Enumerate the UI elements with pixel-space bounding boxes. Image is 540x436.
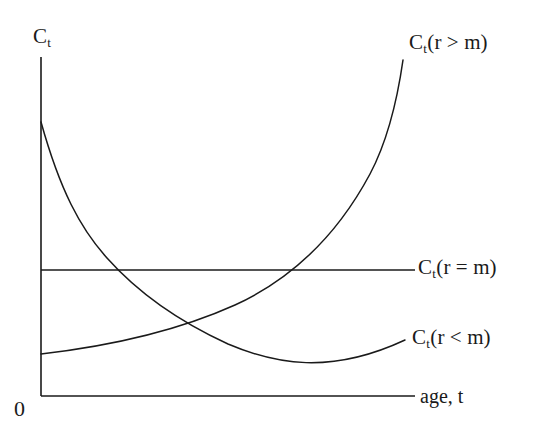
curve-label-r-lt-m-base: C (412, 325, 426, 349)
curve-label-r-less-than-m: Ct(r < m) (412, 327, 491, 350)
curve-label-r-lt-m-condition: (r < m) (430, 325, 490, 349)
curve-label-r-gt-m-condition: (r > m) (427, 30, 487, 54)
plot-canvas (0, 0, 540, 436)
curve-label-r-equals-m: Ct(r = m) (418, 257, 497, 280)
curve-label-r-gt-m-base: C (409, 30, 423, 54)
curve-label-r-greater-than-m: Ct(r > m) (409, 32, 488, 55)
curve-r-greater-than-m (41, 60, 403, 354)
origin-label: 0 (14, 398, 25, 420)
curve-label-r-eq-m-base: C (418, 255, 432, 279)
consumption-path-figure: Ct Ct(r > m) Ct(r = m) Ct(r < m) age, t … (0, 0, 540, 436)
y-axis-label-subscript: t (47, 35, 51, 50)
curve-r-less-than-m (41, 122, 405, 363)
x-axis-label: age, t (420, 386, 463, 406)
curve-label-r-eq-m-condition: (r = m) (436, 255, 496, 279)
y-axis-label-base: C (33, 24, 47, 48)
y-axis-label: Ct (33, 26, 51, 49)
